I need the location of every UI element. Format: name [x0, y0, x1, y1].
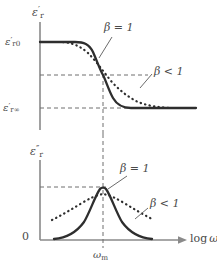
- bottom-beta-eq-1-leader: [108, 176, 127, 189]
- dielectric-relaxation-figure: ε′r ε′r0 ε′r∞ β = 1 β < 1 ε″r 0 β = 1 β …: [0, 0, 217, 276]
- x-axis-log: log: [190, 232, 207, 245]
- eps-r0-subscript: r0: [12, 39, 20, 48]
- annotation-beta-eq-1-bottom: β = 1: [120, 163, 150, 174]
- x-axis-arrowhead: [178, 236, 187, 244]
- bottom-y-axis-subscript: r: [39, 150, 43, 159]
- omega-m-subscript: m: [101, 253, 108, 262]
- annotation-beta-lt-1-top: β < 1: [154, 66, 184, 77]
- bottom-y-axis-label: ε″r: [30, 145, 43, 159]
- omega-m-omega: ω: [93, 249, 101, 260]
- annotation-beta-lt-1-bottom: β < 1: [150, 198, 180, 209]
- top-y-axis-subscript: r: [40, 11, 44, 20]
- x-axis-label: logω: [190, 233, 217, 244]
- x-axis-omega: ω: [209, 232, 217, 245]
- top-y-axis-label: ε′r: [32, 6, 44, 20]
- top-beta-lt-1-leader: [140, 74, 152, 88]
- figure-canvas: [0, 0, 217, 276]
- origin-zero-label: 0: [22, 231, 29, 242]
- eps-rinf-subscript: r∞: [10, 105, 19, 114]
- bottom-panel: [40, 134, 187, 248]
- annotation-beta-eq-1-top: β = 1: [104, 22, 134, 33]
- tick-label-eps-r-infinity: ε′r∞: [3, 101, 20, 113]
- tick-label-eps-r0: ε′r0: [5, 35, 20, 47]
- top-panel: [40, 22, 196, 134]
- top-curve-beta-lt-1: [40, 42, 172, 108]
- tick-label-omega-m: ωm: [93, 250, 108, 261]
- top-beta-eq-1-leader: [99, 37, 112, 58]
- bottom-beta-lt-1-leader: [135, 208, 148, 219]
